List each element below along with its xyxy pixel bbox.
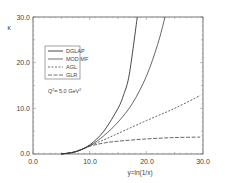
legend-label-mod-mf: MOD MF bbox=[66, 56, 89, 62]
series-dglap bbox=[61, 17, 137, 154]
y-tick-label: 20.0 bbox=[16, 59, 30, 66]
x-tick-label: 30.0 bbox=[196, 158, 210, 165]
annotation-sup: 2 bbox=[79, 88, 81, 92]
q2-annotation: Q2= 5.0 GeV2 bbox=[48, 88, 81, 95]
y-axis-label: κ bbox=[7, 24, 11, 31]
series-agl bbox=[61, 96, 200, 154]
series-glr bbox=[61, 137, 200, 154]
data-series bbox=[61, 17, 200, 154]
y-tick-label: 30.0 bbox=[16, 14, 30, 21]
chart-container: 0.0 10.0 20.0 30.0 0.0 10.0 20.0 30.0 y=… bbox=[0, 0, 225, 183]
annotation-value: = 5.0 GeV bbox=[54, 88, 79, 94]
x-tick-label: 0.0 bbox=[28, 158, 38, 165]
line-chart: 0.0 10.0 20.0 30.0 0.0 10.0 20.0 30.0 y=… bbox=[0, 0, 225, 183]
legend-label-glr: GLR bbox=[66, 72, 77, 78]
legend-label-dglap: DGLAP bbox=[66, 48, 85, 54]
x-tick-label: 20.0 bbox=[140, 158, 154, 165]
x-axis-label: y=ln(1/x) bbox=[127, 169, 152, 177]
y-tick-label: 0.0 bbox=[20, 150, 30, 157]
y-tick-label: 10.0 bbox=[16, 105, 30, 112]
x-tick-label: 10.0 bbox=[83, 158, 97, 165]
series-mod-mf bbox=[61, 17, 165, 154]
legend: DGLAP MOD MF AGL GLR bbox=[45, 46, 89, 79]
legend-label-agl: AGL bbox=[66, 64, 77, 70]
